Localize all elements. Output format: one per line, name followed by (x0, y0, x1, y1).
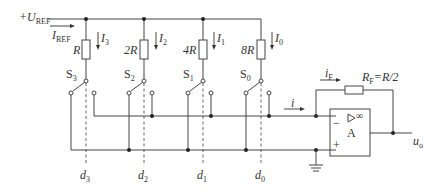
switch-label-3: S3 (66, 67, 77, 83)
switch-label-0: S0 (240, 67, 251, 83)
bit-label-0: d0 (255, 168, 265, 184)
output-voltage-label: uo (413, 134, 423, 150)
bit-label-1: d1 (197, 168, 207, 184)
infinity-symbol: ∞ (356, 110, 363, 121)
sum-current-label: i (291, 96, 294, 111)
resistor-label-3: R (73, 43, 80, 58)
noninverting-input-label: + (333, 138, 340, 153)
branch-1 (186, 19, 213, 165)
opamp-label: A (347, 126, 356, 141)
feedback-resistor-label: RF=R/2 (362, 70, 399, 86)
current-label-2: I2 (159, 31, 167, 47)
bit-label-2: d2 (138, 168, 148, 184)
switch-label-1: S1 (183, 67, 194, 83)
resistor-label-2: 2R (124, 43, 137, 58)
current-label-1: I1 (217, 31, 225, 47)
resistor-label-1: 4R (183, 43, 196, 58)
bit-label-3: d3 (80, 168, 90, 184)
feedback-current-label: iF (325, 66, 333, 82)
inverting-input-label: − (333, 116, 340, 131)
dac-circuit-diagram: +UREF IREF R I3 S3 d3 2R I2 S2 d2 4R I1 … (0, 0, 438, 191)
branch-2 (127, 19, 154, 165)
branch-0 (244, 19, 271, 165)
reference-voltage-label: +UREF (19, 10, 50, 26)
current-label-3: I3 (101, 31, 109, 47)
reference-current-label: IREF (52, 28, 71, 44)
current-label-0: I0 (275, 31, 283, 47)
resistor-label-0: 8R (241, 43, 254, 58)
branch-3 (69, 19, 96, 165)
switch-label-2: S2 (124, 67, 135, 83)
